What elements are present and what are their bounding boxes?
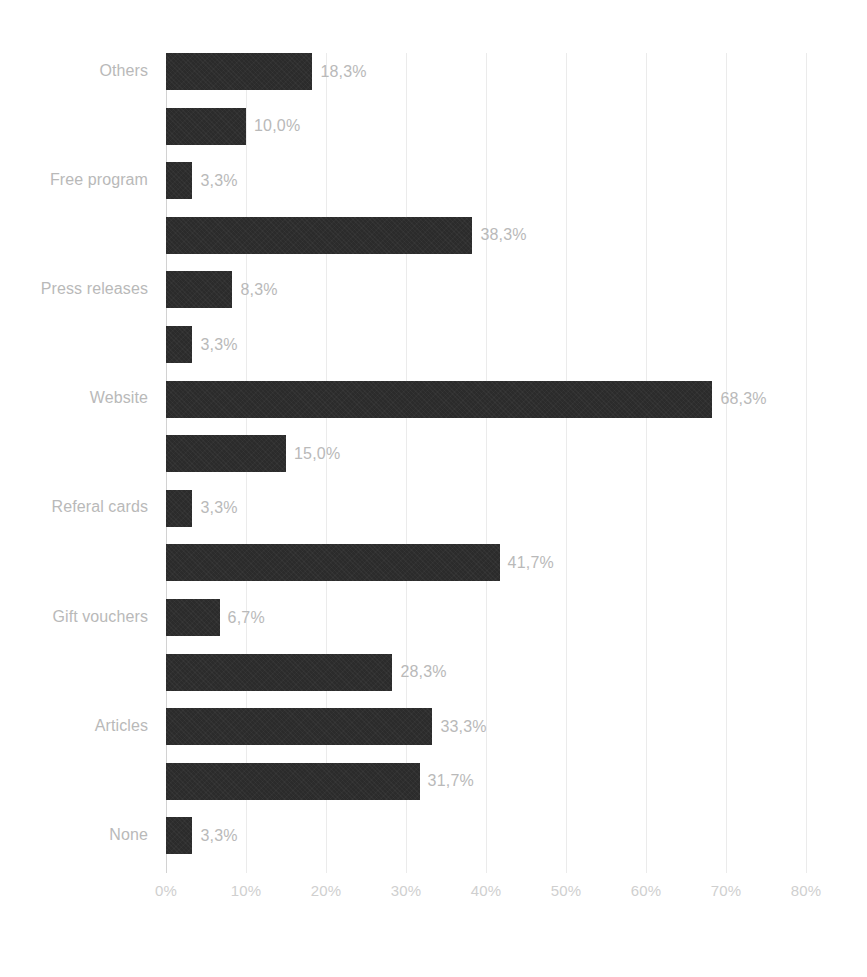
bar-value-label: 31,7% bbox=[428, 772, 474, 790]
bar-row: 68,3% bbox=[166, 381, 867, 418]
category-label-articles: Articles bbox=[0, 717, 160, 735]
bar bbox=[166, 490, 192, 527]
bar-value-label: 41,7% bbox=[508, 554, 554, 572]
x-tick-label: 40% bbox=[471, 882, 502, 899]
bar-row: 31,7% bbox=[166, 763, 867, 800]
bar-row: 15,0% bbox=[166, 435, 867, 472]
bar-value-label: 68,3% bbox=[720, 390, 766, 408]
bar-value-label: 10,0% bbox=[254, 117, 300, 135]
bar-value-label: 33,3% bbox=[440, 718, 486, 736]
x-tick-label: 20% bbox=[311, 882, 342, 899]
bar bbox=[166, 108, 246, 145]
bar-row: 38,3% bbox=[166, 217, 867, 254]
bar bbox=[166, 654, 392, 691]
category-label-referal-cards: Referal cards bbox=[0, 498, 160, 516]
bar-row: 3,3% bbox=[166, 817, 867, 854]
bar-value-label: 28,3% bbox=[400, 663, 446, 681]
category-label-none: None bbox=[0, 826, 160, 844]
bar-value-label: 15,0% bbox=[294, 445, 340, 463]
bar bbox=[166, 599, 220, 636]
bar-value-label: 6,7% bbox=[228, 609, 265, 627]
category-label-others: Others bbox=[0, 62, 160, 80]
bar bbox=[166, 708, 432, 745]
bar bbox=[166, 326, 192, 363]
category-label-gift-vouchers: Gift vouchers bbox=[0, 608, 160, 626]
bar-row: 33,3% bbox=[166, 708, 867, 745]
bar-value-label: 3,3% bbox=[200, 827, 237, 845]
bar bbox=[166, 271, 232, 308]
bar bbox=[166, 217, 472, 254]
bar-row: 3,3% bbox=[166, 326, 867, 363]
bar bbox=[166, 544, 500, 581]
x-tick-label: 10% bbox=[231, 882, 262, 899]
bar-chart: 18,3%10,0%3,3%38,3%8,3%3,3%68,3%15,0%3,3… bbox=[0, 0, 867, 977]
bar-row: 28,3% bbox=[166, 654, 867, 691]
bar bbox=[166, 162, 192, 199]
bar-row: 3,3% bbox=[166, 162, 867, 199]
bar bbox=[166, 817, 192, 854]
bar-row: 18,3% bbox=[166, 53, 867, 90]
category-label-press-releases: Press releases bbox=[0, 280, 160, 298]
bar-row: 3,3% bbox=[166, 490, 867, 527]
bar bbox=[166, 381, 712, 418]
x-tick-label: 50% bbox=[551, 882, 582, 899]
bar bbox=[166, 763, 420, 800]
x-tick-label: 70% bbox=[711, 882, 742, 899]
bar-value-label: 3,3% bbox=[200, 336, 237, 354]
category-label-website: Website bbox=[0, 389, 160, 407]
x-tick-label: 80% bbox=[791, 882, 822, 899]
x-axis-tick-labels: 0%10%20%30%40%50%60%70%80% bbox=[166, 882, 867, 922]
x-tick-label: 0% bbox=[155, 882, 177, 899]
bar-value-label: 3,3% bbox=[200, 172, 237, 190]
bars-layer: 18,3%10,0%3,3%38,3%8,3%3,3%68,3%15,0%3,3… bbox=[166, 53, 867, 873]
bar-row: 6,7% bbox=[166, 599, 867, 636]
category-label-free-program: Free program bbox=[0, 171, 160, 189]
bar-row: 41,7% bbox=[166, 544, 867, 581]
bar-value-label: 18,3% bbox=[320, 63, 366, 81]
bar bbox=[166, 53, 312, 90]
bar-value-label: 3,3% bbox=[200, 499, 237, 517]
bar-value-label: 38,3% bbox=[480, 226, 526, 244]
bar-row: 8,3% bbox=[166, 271, 867, 308]
category-labels: OthersFree programPress releasesWebsiteR… bbox=[0, 53, 160, 873]
bar-row: 10,0% bbox=[166, 108, 867, 145]
x-tick-label: 60% bbox=[631, 882, 662, 899]
x-tick-label: 30% bbox=[391, 882, 422, 899]
bar-value-label: 8,3% bbox=[240, 281, 277, 299]
bar bbox=[166, 435, 286, 472]
